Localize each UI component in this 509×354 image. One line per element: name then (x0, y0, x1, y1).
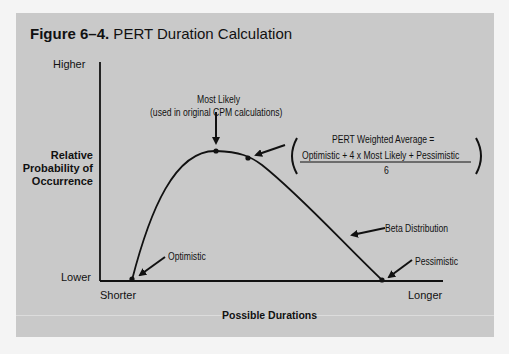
y-axis-label: Relative Probability of Occurrence (23, 149, 93, 188)
y-axis-label-line1: Relative (23, 149, 93, 162)
y-axis-bottom-label: Lower (61, 271, 91, 283)
formula-denominator: 6 (384, 165, 389, 176)
formula-left-paren (292, 138, 297, 174)
most-likely-point (213, 148, 218, 153)
pessimistic-arrow (389, 260, 412, 277)
y-axis-top-label: Higher (53, 58, 85, 70)
y-axis-label-line2: Probability of (23, 162, 93, 175)
optimistic-label: Optimistic (168, 251, 206, 262)
x-axis-left-label: Shorter (100, 289, 136, 301)
formula-numerator: Optimistic + 4 x Most Likely + Pessimist… (302, 150, 459, 161)
optimistic-point (129, 276, 134, 281)
optimistic-arrow (140, 257, 165, 275)
pessimistic-point (379, 277, 384, 282)
pert-average-arrow (256, 145, 285, 155)
pessimistic-label: Pessimistic (415, 256, 458, 267)
beta-distribution-label: Beta Distribution (385, 223, 448, 234)
most-likely-note: (used in original CPM calculations) (150, 107, 282, 118)
beta-arrow (352, 228, 385, 235)
y-axis-label-line3: Occurrence (23, 175, 93, 188)
formula-lhs: PERT Weighted Average = (332, 134, 434, 145)
x-axis-right-label: Longer (408, 289, 442, 301)
most-likely-label: Most Likely (197, 94, 240, 105)
pert-average-point (245, 155, 250, 160)
formula-right-paren (476, 138, 481, 174)
x-axis-label: Possible Durations (222, 309, 317, 321)
